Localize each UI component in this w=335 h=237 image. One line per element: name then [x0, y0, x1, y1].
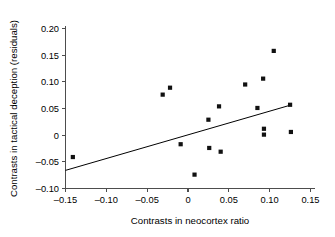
y-tick-label: 0.20	[41, 24, 59, 34]
y-tick-label: 0.05	[41, 104, 59, 114]
x-tick-label: 0	[185, 195, 190, 205]
data-point	[261, 77, 265, 81]
data-point	[272, 49, 276, 53]
y-tick-label: –0.05	[36, 157, 59, 167]
x-tick-label: –0.15	[54, 195, 77, 205]
data-point	[217, 104, 221, 108]
data-point	[289, 130, 293, 134]
data-point-group	[71, 49, 293, 177]
x-tick-label: 0.15	[301, 195, 319, 205]
data-point	[168, 86, 172, 90]
x-tick-label: 0.05	[220, 195, 238, 205]
x-axis-title: Contrasts in neocortex ratio	[131, 215, 249, 226]
y-axis-title: Contrasts in tactical deception (residua…	[8, 20, 19, 197]
data-point	[161, 93, 165, 97]
data-point	[262, 127, 266, 131]
x-axis: –0.15–0.10–0.0500.050.100.15	[54, 189, 320, 206]
data-point	[255, 106, 259, 110]
y-tick-label: 0	[54, 131, 59, 141]
y-tick-group: –0.10–0.0500.050.100.150.20	[36, 24, 66, 194]
data-point	[179, 142, 183, 146]
data-point	[206, 118, 210, 122]
data-point	[243, 82, 247, 86]
x-tick-group: –0.15–0.10–0.0500.050.100.15	[54, 189, 320, 206]
y-axis: –0.10–0.0500.050.100.150.20	[36, 24, 66, 194]
plot-canvas: –0.10–0.0500.050.100.150.20 –0.15–0.10–0…	[0, 0, 335, 237]
data-point	[207, 146, 211, 150]
y-tick-label: –0.10	[36, 184, 59, 194]
data-point	[192, 173, 196, 177]
y-tick-label: 0.15	[41, 51, 59, 61]
data-point	[71, 155, 75, 159]
data-point	[288, 103, 292, 107]
regression-line	[66, 105, 292, 171]
data-point	[262, 133, 266, 137]
trend-line-group	[66, 105, 292, 171]
x-tick-label: –0.10	[95, 195, 118, 205]
y-tick-label: 0.10	[41, 77, 59, 87]
x-tick-label: 0.10	[261, 195, 279, 205]
data-point	[219, 150, 223, 154]
x-tick-label: –0.05	[136, 195, 159, 205]
scatter-plot-figure: –0.10–0.0500.050.100.150.20 –0.15–0.10–0…	[0, 0, 335, 237]
